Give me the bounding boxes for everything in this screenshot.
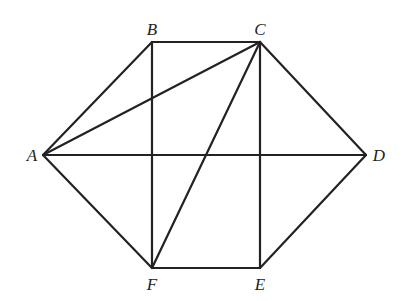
segments <box>43 42 366 268</box>
label-e: E <box>254 275 266 294</box>
diagram-canvas: A B C D E F <box>0 0 407 301</box>
label-c: C <box>254 20 266 39</box>
segment-de <box>260 155 366 268</box>
label-f: F <box>146 275 158 294</box>
segment-cd <box>260 42 366 155</box>
hexagon-diagram: A B C D E F <box>0 0 407 301</box>
label-b: B <box>147 20 158 39</box>
segment-fa <box>43 155 152 268</box>
segment-ab <box>43 42 152 155</box>
label-d: D <box>372 146 386 165</box>
label-a: A <box>26 146 38 165</box>
